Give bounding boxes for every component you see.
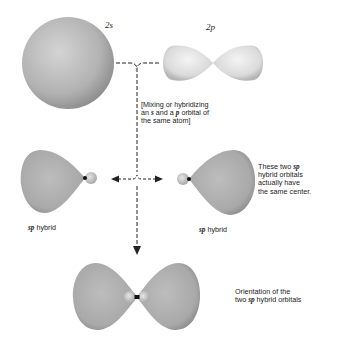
sp-hybrid-left [21,150,97,213]
nucleus-dot [135,295,140,299]
p-orbital [163,46,263,81]
same-center-note: These two sp hybrid orbitals actually ha… [258,163,311,196]
sp-hybrid-combined [73,263,200,330]
orientation-note: Orientation of the two sp hybrid orbital… [235,288,301,304]
split-arrows [118,175,156,179]
s-orbital-label: 2s [105,20,113,30]
p-orbital-label: 2p [206,22,215,32]
arrow-left-icon [111,176,119,183]
mixing-connector [116,63,159,246]
arrow-right-icon [155,176,163,183]
nucleus-dot [187,177,191,181]
hybrid-right-label: sp hybrid [199,226,227,234]
arrow-down-icon [133,246,141,255]
s-orbital-sphere [22,17,114,109]
mixing-note: [Mixing or hybridizing an sps and a p or… [141,101,209,126]
sp-hybrid-right [177,150,255,215]
hybrid-left-label: sp hybrid [28,224,56,232]
nucleus-dot [83,176,87,180]
